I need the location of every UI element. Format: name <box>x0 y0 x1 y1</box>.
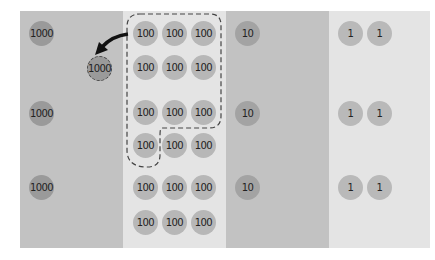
regroup-overlay <box>0 0 435 260</box>
dashed-group-outline <box>127 14 221 167</box>
regroup-arrow-icon <box>102 34 128 47</box>
